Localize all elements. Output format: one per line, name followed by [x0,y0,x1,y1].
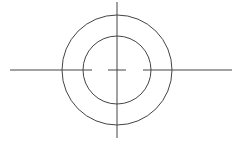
concentric-circles-diagram [0,0,233,146]
